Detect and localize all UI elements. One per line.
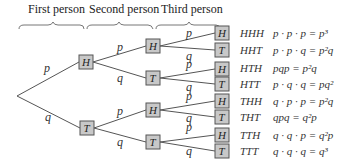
node-2-tt: T xyxy=(146,135,160,149)
brace-second xyxy=(87,22,153,29)
svg-text:T: T xyxy=(219,44,226,56)
outcome-formula: qpq = q²p xyxy=(273,111,317,123)
outcome-formula: p · q · q = pq² xyxy=(272,78,334,90)
edge-label-3-3: p xyxy=(185,57,192,71)
edge-label-2-tt: q xyxy=(117,135,123,149)
node-3-ttt: T xyxy=(215,144,229,158)
outcome-label: TTT xyxy=(240,145,259,157)
outcome-label: THT xyxy=(240,111,261,123)
edge-label-3-1: p xyxy=(185,26,192,40)
edge-label-2-th: p xyxy=(116,104,123,118)
svg-text:T: T xyxy=(150,136,157,148)
node-3-tht: T xyxy=(215,110,229,124)
edge-label-3-7: p xyxy=(185,120,192,134)
svg-text:T: T xyxy=(150,72,157,84)
node-3-hht: T xyxy=(215,43,229,57)
outcome-label: HHH xyxy=(239,27,265,39)
node-1-h: H xyxy=(79,55,93,69)
svg-text:H: H xyxy=(217,27,227,39)
edge-label-2-ht: q xyxy=(117,71,123,85)
node-2-th: H xyxy=(146,103,160,117)
svg-text:H: H xyxy=(81,56,91,68)
node-3-htt: T xyxy=(215,77,229,91)
header-third-person: Third person xyxy=(161,2,223,16)
outcome-label: HHT xyxy=(239,44,263,56)
edge-label-3-5: p xyxy=(185,89,192,103)
edge-label-1-t: q xyxy=(45,110,51,124)
svg-text:T: T xyxy=(219,111,226,123)
probability-tree-diagram: First person Second person Third person … xyxy=(0,0,344,166)
outcome-formula: q · q · p = q²p xyxy=(273,129,334,141)
node-3-thh: H xyxy=(215,94,229,108)
svg-text:H: H xyxy=(217,95,227,107)
brace-first xyxy=(19,22,84,29)
node-3-hth: H xyxy=(215,62,229,76)
edge-label-3-8: q xyxy=(186,144,192,158)
outcome-label: THH xyxy=(240,95,263,107)
svg-text:T: T xyxy=(219,78,226,90)
node-2-hh: H xyxy=(146,39,160,53)
outcome-formula: q · p · p = p²q xyxy=(273,95,334,107)
outcome-formula: p · p · q = p²q xyxy=(272,44,334,56)
edge-label-2-hh: p xyxy=(116,40,123,54)
outcome-formula: p · p · p = p³ xyxy=(272,27,328,39)
outcome-label: HTT xyxy=(239,78,261,90)
header-first-person: First person xyxy=(28,2,85,16)
svg-text:T: T xyxy=(84,122,91,134)
header-second-person: Second person xyxy=(89,2,159,16)
node-2-ht: T xyxy=(146,71,160,85)
outcome-label: TTH xyxy=(240,129,261,141)
svg-text:T: T xyxy=(219,145,226,157)
node-3-tth: H xyxy=(215,128,229,142)
outcome-formula: q · q · q = q³ xyxy=(273,145,328,157)
outcome-label: HTH xyxy=(239,62,263,74)
node-3-hhh: H xyxy=(215,26,229,40)
node-1-t: T xyxy=(80,121,94,135)
svg-text:H: H xyxy=(217,63,227,75)
svg-text:H: H xyxy=(148,40,158,52)
outcome-formula: pqp = p²q xyxy=(272,62,317,74)
svg-text:H: H xyxy=(148,104,158,116)
edge-label-1-h: p xyxy=(43,61,50,75)
svg-text:H: H xyxy=(217,129,227,141)
